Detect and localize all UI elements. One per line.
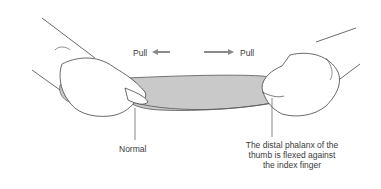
normal-label: Normal [119, 144, 146, 154]
left-hand [32, 18, 148, 116]
pull-right-label: Pull [240, 48, 254, 58]
pull-arrow-right [204, 49, 234, 55]
right-hand [262, 28, 360, 116]
abnormal-label-line1: The distal phalanx of the [222, 140, 362, 150]
abnormal-label-line2: thumb is flexed against [222, 150, 362, 160]
abnormal-label-line3: the index finger [222, 160, 362, 170]
abnormal-label: The distal phalanx of the thumb is flexe… [222, 140, 362, 170]
pull-arrow-left [152, 49, 170, 55]
pull-left-label: Pull [133, 48, 147, 58]
